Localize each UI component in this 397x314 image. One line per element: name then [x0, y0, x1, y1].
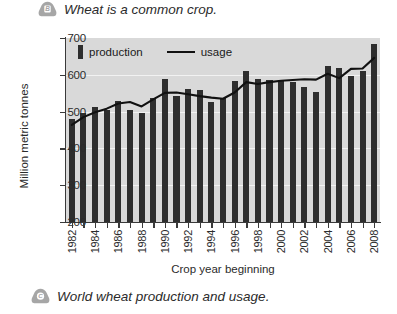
legend-production-label: production [89, 46, 143, 58]
y-tick-label-400: 400 [46, 142, 86, 154]
x-tick-mark-1993 [200, 223, 201, 228]
x-tick-label-1996: 1996 [229, 230, 241, 253]
y-axis-title: Million metric tonnes [18, 66, 30, 206]
svg-text:B: B [45, 5, 50, 12]
y-tick-label-300: 300 [46, 179, 86, 191]
x-tick-mark-1992 [188, 223, 189, 228]
x-tick-mark-1990 [165, 223, 166, 228]
x-tick-mark-1998 [258, 223, 259, 228]
y-tick-label-200: 200 [46, 216, 86, 228]
x-tick-label-1994: 1994 [205, 230, 217, 253]
y-tick-label-600: 600 [46, 69, 86, 81]
x-tick-label-1992: 1992 [182, 230, 194, 253]
caption-bottom-text: World wheat production and usage. [57, 289, 269, 304]
chart-world-wheat-production-usage: production usage 200300400500600700 1982… [0, 30, 397, 260]
x-tick-mark-2007 [363, 223, 364, 228]
x-tick-mark-1997 [246, 223, 247, 228]
chart-legend: production usage [78, 45, 232, 59]
x-tick-mark-2002 [304, 223, 305, 228]
x-tick-label-2006: 2006 [345, 230, 357, 253]
x-tick-mark-2001 [293, 223, 294, 228]
x-tick-mark-1986 [118, 223, 119, 228]
x-tick-label-2002: 2002 [298, 230, 310, 253]
x-tick-label-2000: 2000 [275, 230, 287, 253]
x-tick-mark-2006 [351, 223, 352, 228]
badge-b-icon: B [38, 1, 57, 18]
x-tick-mark-1994 [211, 223, 212, 228]
caption-world-wheat-production-usage: C World wheat production and usage. [31, 288, 269, 305]
x-tick-mark-2003 [316, 223, 317, 228]
legend-usage-label: usage [201, 46, 232, 58]
x-tick-mark-1988 [142, 223, 143, 228]
x-tick-label-1982: 1982 [66, 230, 78, 253]
x-tick-label-1990: 1990 [159, 230, 171, 253]
x-tick-mark-2004 [328, 223, 329, 228]
x-tick-mark-1989 [153, 223, 154, 228]
legend-production-swatch [78, 45, 83, 59]
x-tick-label-2008: 2008 [368, 230, 380, 253]
x-tick-mark-2008 [374, 223, 375, 228]
x-tick-label-1998: 1998 [252, 230, 264, 253]
x-tick-label-1984: 1984 [89, 230, 101, 253]
badge-c-icon: C [31, 288, 50, 305]
x-tick-mark-1984 [95, 223, 96, 228]
x-tick-mark-1991 [176, 223, 177, 228]
caption-top-text: Wheat is a common crop. [64, 2, 217, 17]
svg-text:C: C [38, 292, 43, 299]
x-tick-label-1986: 1986 [112, 230, 124, 253]
y-axis-line [65, 37, 66, 223]
caption-wheat-common-crop: B Wheat is a common crop. [38, 1, 217, 18]
x-axis-title: Crop year beginning [66, 263, 380, 275]
y-tick-label-500: 500 [46, 106, 86, 118]
usage-line [66, 38, 380, 222]
x-tick-mark-2005 [339, 223, 340, 228]
x-tick-mark-1985 [107, 223, 108, 228]
x-tick-mark-1987 [130, 223, 131, 228]
x-tick-label-2004: 2004 [322, 230, 334, 253]
y-tick-label-700: 700 [46, 32, 86, 44]
x-tick-mark-1982 [72, 223, 73, 228]
legend-usage-line-icon [167, 51, 195, 53]
x-tick-mark-1996 [235, 223, 236, 228]
x-tick-mark-1995 [223, 223, 224, 228]
x-tick-mark-1999 [270, 223, 271, 228]
x-tick-label-1988: 1988 [136, 230, 148, 253]
x-tick-mark-1983 [83, 223, 84, 228]
x-tick-mark-2000 [281, 223, 282, 228]
plot-area [66, 38, 380, 222]
